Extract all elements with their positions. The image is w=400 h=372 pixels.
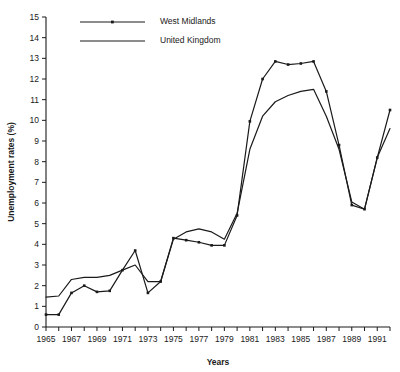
- series-marker: [223, 244, 226, 247]
- series-marker: [389, 109, 392, 112]
- series-marker: [312, 60, 315, 63]
- y-tick-label: 14: [30, 33, 40, 43]
- series-marker: [70, 292, 73, 295]
- unemployment-rates-line-chart: 0123456789101112131415196519671969197119…: [0, 0, 400, 372]
- series-marker: [147, 292, 150, 295]
- series-marker: [45, 313, 48, 316]
- y-tick-label: 15: [30, 12, 40, 22]
- y-tick-label: 13: [30, 53, 40, 63]
- x-tick-label: 1985: [291, 334, 310, 344]
- series-marker: [287, 63, 290, 66]
- chart-page: 0123456789101112131415196519671969197119…: [0, 0, 400, 372]
- series-marker: [198, 241, 201, 244]
- series-marker: [210, 244, 213, 247]
- series-marker: [108, 290, 111, 293]
- series-marker: [83, 284, 86, 287]
- x-tick-label: 1967: [62, 334, 81, 344]
- y-tick-label: 0: [34, 322, 39, 332]
- y-tick-label: 2: [34, 281, 39, 291]
- x-tick-label: 1983: [266, 334, 285, 344]
- series-marker: [57, 313, 60, 316]
- series-marker: [325, 90, 328, 93]
- series-marker: [134, 249, 137, 252]
- y-tick-label: 3: [34, 260, 39, 270]
- y-axis-title: Unemployment rates (%): [6, 122, 16, 222]
- x-tick-label: 1977: [189, 334, 208, 344]
- x-tick-label: 1965: [37, 334, 56, 344]
- y-tick-label: 5: [34, 219, 39, 229]
- x-tick-label: 1975: [164, 334, 183, 344]
- x-axis-title: Years: [207, 357, 230, 367]
- series-marker: [185, 239, 188, 242]
- y-tick-label: 9: [34, 136, 39, 146]
- legend-label-united-kingdom: United Kingdom: [160, 35, 220, 45]
- y-tick-label: 7: [34, 177, 39, 187]
- x-tick-label: 1987: [317, 334, 336, 344]
- legend-label-west-midlands: West Midlands: [160, 16, 216, 26]
- x-tick-label: 1989: [342, 334, 361, 344]
- y-tick-label: 10: [30, 115, 40, 125]
- y-tick-label: 8: [34, 157, 39, 167]
- y-tick-label: 4: [34, 239, 39, 249]
- y-tick-label: 11: [30, 95, 39, 105]
- x-tick-label: 1979: [215, 334, 234, 344]
- series-line-0: [46, 61, 390, 314]
- x-tick-label: 1973: [138, 334, 157, 344]
- series-marker: [300, 62, 303, 65]
- series-marker: [261, 78, 264, 81]
- legend-marker-west-midlands: [111, 21, 114, 24]
- series-line-1: [46, 89, 390, 297]
- series-marker: [249, 120, 252, 123]
- x-tick-label: 1971: [113, 334, 132, 344]
- x-tick-label: 1991: [368, 334, 387, 344]
- series-marker: [96, 291, 99, 294]
- x-tick-label: 1969: [88, 334, 107, 344]
- series-marker: [350, 204, 353, 207]
- y-tick-label: 12: [30, 74, 40, 84]
- y-tick-label: 6: [34, 198, 39, 208]
- x-tick-label: 1981: [240, 334, 259, 344]
- series-marker: [274, 60, 277, 63]
- y-tick-label: 1: [34, 301, 39, 311]
